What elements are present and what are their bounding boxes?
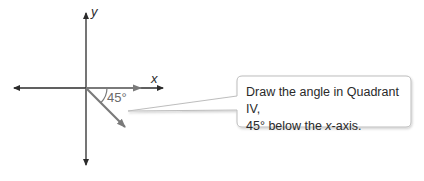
callout-line-2-prefix: 45° below the [246, 119, 325, 133]
callout-line-2-suffix: -axis. [332, 119, 362, 133]
y-axis-label: y [91, 4, 98, 19]
x-axis-label: x [151, 71, 158, 86]
callout-line-2: 45° below the x-axis. [246, 118, 411, 135]
callout-line-1: Draw the angle in Quadrant IV, [246, 84, 411, 118]
callout-text: Draw the angle in Quadrant IV, 45° below… [246, 84, 411, 135]
angle-label: 45° [107, 90, 127, 105]
